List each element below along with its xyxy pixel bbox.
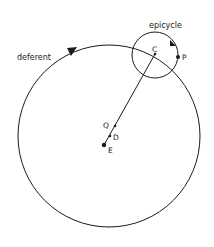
- epicycle-label: epicycle: [149, 21, 182, 30]
- label-p: P: [182, 53, 187, 62]
- point-q: [114, 125, 117, 128]
- label-q: Q: [103, 121, 109, 130]
- radius-line: [104, 54, 155, 145]
- label-d: D: [113, 133, 119, 142]
- point-e: [102, 143, 106, 147]
- label-c: C: [152, 45, 157, 54]
- deferent-label: deferent: [17, 53, 51, 62]
- label-e: E: [108, 146, 113, 155]
- point-d: [109, 135, 112, 138]
- epicycle-diagram: deferent epicycle C P Q D E: [0, 0, 214, 247]
- point-p: [176, 55, 180, 59]
